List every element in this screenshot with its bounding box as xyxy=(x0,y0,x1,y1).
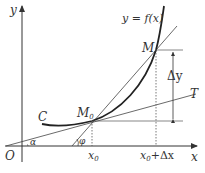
point-m0-label: M0 xyxy=(76,106,94,121)
function-label: y = f(x) xyxy=(121,12,163,25)
alpha-label: α xyxy=(30,137,36,147)
phi-label: φ xyxy=(79,136,86,146)
alpha-arc xyxy=(28,145,29,147)
x0-label: x0 xyxy=(88,149,99,163)
x-axis-label: x xyxy=(191,150,198,164)
origin-label: O xyxy=(5,149,15,163)
x0-dx-label: x0+Δx xyxy=(140,149,175,163)
secant-line xyxy=(72,26,177,146)
tangent-label: T xyxy=(190,87,199,101)
y-axis-label: y xyxy=(9,3,17,17)
derivative-diagram: y x O y = f(x) C M0 M Δy T α φ x0 x0+Δx xyxy=(0,0,205,173)
delta-y-label: Δy xyxy=(167,69,183,83)
point-m-label: M xyxy=(141,41,155,55)
curve-label: C xyxy=(38,110,47,124)
diagram-svg: y x O y = f(x) C M0 M Δy T α φ x0 x0+Δx xyxy=(0,0,205,173)
